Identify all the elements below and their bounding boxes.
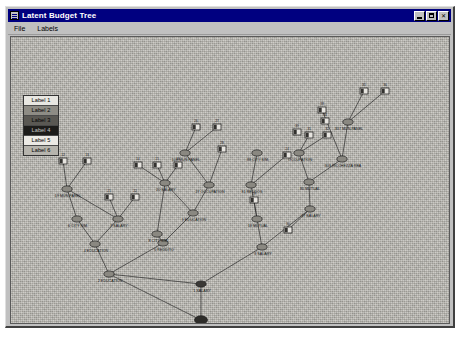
leaf-label: 13	[85, 153, 89, 157]
tree-node-label: 3 SALARY	[254, 252, 272, 256]
tree-node-label: 20 SALARY	[156, 188, 176, 192]
menu-labels[interactable]: Labels	[31, 23, 64, 34]
tree-canvas[interactable]: 1213141516212226272824293031323435363839…	[10, 36, 450, 324]
leaf-label: 31	[307, 127, 311, 131]
leaf-label: 28	[220, 141, 224, 145]
screenshot-root: Latent Budget Tree ✕ File Labels 1213141…	[0, 0, 462, 339]
tree-node[interactable]: 108 MUN.PANEL	[172, 150, 200, 162]
minimize-button[interactable]	[414, 11, 425, 21]
tree-leaf-node[interactable]: 39	[293, 124, 301, 135]
tree-node-label: 27 OCCUPATION	[195, 190, 224, 194]
tree-node-label: 303 RICCHEZZA REA	[325, 164, 362, 168]
tree-node[interactable]: 88 CITY SIM.	[247, 150, 269, 162]
tree-node-label: 88 CITY SIM.	[247, 158, 269, 162]
tree-node[interactable]: 9 EDUCATION	[182, 210, 207, 222]
tree-node[interactable]: 80 MUTUAL	[300, 179, 320, 191]
leaf-label: 30	[286, 222, 290, 226]
leaf-label: 36	[383, 83, 387, 87]
application-window: Latent Budget Tree ✕ File Labels 1213141…	[5, 6, 455, 328]
tree-internal-nodes: 1 SALARY2 EDUCATION3 SALARY4 EDUCATION5 …	[55, 119, 363, 324]
legend-row-6[interactable]: Label 6	[24, 146, 58, 155]
tree-leaf-node[interactable]: 27	[213, 119, 221, 130]
tree-leaf-node[interactable]: 22	[131, 189, 139, 200]
leaf-label: 32	[325, 127, 329, 131]
tree-node-label: 81 REDDOS	[242, 190, 263, 194]
tree-leaf-node[interactable]: 38	[318, 102, 326, 113]
tree-node-label: 80 MUTUAL	[300, 187, 320, 191]
leaf-label: 39	[295, 124, 299, 128]
close-button[interactable]: ✕	[438, 11, 449, 21]
tree-node[interactable]: 4 EDUCATION	[84, 241, 109, 253]
tree-root-node[interactable]: EDUCATION	[190, 316, 212, 324]
tree-leaf-node[interactable]: 13	[83, 153, 91, 164]
tree-leaf-node[interactable]: 30	[284, 222, 292, 233]
window-title: Latent Budget Tree	[22, 11, 414, 20]
leaf-label: 22	[133, 189, 137, 193]
tree-leaf-node[interactable]: 14	[134, 157, 142, 168]
tree-leaf-node[interactable]: 28	[218, 141, 226, 152]
tree-leaf-node[interactable]: 34	[321, 113, 329, 124]
tree-node-label: 7 SALARY	[110, 224, 128, 228]
tree-leaf-node[interactable]: 36	[381, 83, 389, 94]
leaf-label: 14	[136, 157, 140, 161]
legend-row-2[interactable]: Label 2	[24, 106, 58, 116]
leaf-label: 35	[362, 83, 366, 87]
tree-node[interactable]: 19 MUN.PANEL	[55, 186, 81, 198]
tree-node[interactable]: 37 SALARY	[301, 206, 321, 218]
tree-leaf-node[interactable]: 21	[105, 189, 113, 200]
tree-node-label: 108 MUN.PANEL	[172, 158, 200, 162]
legend-row-3[interactable]: Label 3	[24, 116, 58, 126]
leaf-label: 24	[285, 147, 289, 151]
tree-node[interactable]: 6 CITY SIM.	[68, 216, 88, 228]
tree-edges	[63, 91, 385, 320]
leaf-label: 34	[323, 113, 327, 117]
tree-node[interactable]: OCCUPATION	[288, 150, 312, 162]
tree-leaf-node[interactable]: 12	[59, 153, 67, 164]
close-icon: ✕	[439, 11, 448, 19]
tree-leaf-node[interactable]: 24	[283, 147, 291, 158]
tree-node-label: 307 MUN.PANEL	[335, 127, 363, 131]
menu-file[interactable]: File	[8, 23, 31, 34]
legend-row-4[interactable]: Label 4	[24, 126, 58, 136]
tree-node-label: 1 SALARY	[193, 289, 211, 293]
tree-leaf-node[interactable]: 31	[305, 127, 313, 138]
leaf-label: 12	[61, 153, 65, 157]
tree-node-label: 37 SALARY	[301, 214, 321, 218]
leaf-label: 21	[107, 189, 111, 193]
maximize-button[interactable]	[426, 11, 437, 21]
tree-node-label: 2 EDUCATION	[98, 279, 123, 283]
latent-budget-tree-graph: 1213141516212226272824293031323435363839…	[11, 37, 450, 324]
tree-node-label: 9 EDUCATION	[182, 218, 207, 222]
tree-node[interactable]: 20 SALARY	[156, 180, 176, 192]
category-legend[interactable]: Label 1 Label 2 Label 3 Label 4 Label 5 …	[23, 95, 59, 156]
tree-node-label: 18 MUTUAL	[248, 224, 268, 228]
window-controls: ✕	[414, 11, 450, 21]
tree-node-label: 6 CITY SIM.	[68, 224, 88, 228]
app-window-icon	[10, 11, 19, 20]
tree-node[interactable]: 27 OCCUPATION	[195, 182, 224, 194]
tree-leaf-node[interactable]: 15	[153, 157, 161, 168]
title-bar: Latent Budget Tree ✕	[8, 9, 451, 22]
tree-node[interactable]: 18 MUTUAL	[248, 216, 268, 228]
leaf-label: 27	[215, 119, 219, 123]
tree-node[interactable]: 303 RICCHEZZA REA	[325, 156, 362, 168]
tree-node[interactable]: 7 SALARY	[110, 216, 128, 228]
tree-node[interactable]: 81 REDDOS	[242, 182, 263, 194]
tree-node-label: 19 MUN.PANEL	[55, 194, 81, 198]
tree-node-label: 8 CITY SIM	[148, 239, 167, 243]
tree-node[interactable]: 2 EDUCATION	[98, 271, 123, 283]
tree-node-label: 4 EDUCATION	[84, 249, 109, 253]
legend-row-1[interactable]: Label 1	[24, 96, 58, 106]
menu-bar: File Labels	[8, 23, 451, 35]
tree-node[interactable]: 307 MUN.PANEL	[335, 119, 363, 131]
leaf-label: 38	[320, 102, 324, 106]
tree-node-label: 5 REDDITO	[154, 248, 174, 252]
leaf-label: 26	[194, 119, 198, 123]
tree-leaf-node[interactable]: 26	[192, 119, 200, 130]
leaf-label: 15	[155, 157, 159, 161]
legend-row-5[interactable]: Label 5	[24, 136, 58, 146]
tree-leaf-node[interactable]: 35	[360, 83, 368, 94]
tree-node[interactable]: 8 CITY SIM	[148, 231, 167, 243]
tree-node-label: OCCUPATION	[288, 158, 312, 162]
tree-node[interactable]: 1 SALARY	[193, 281, 211, 293]
